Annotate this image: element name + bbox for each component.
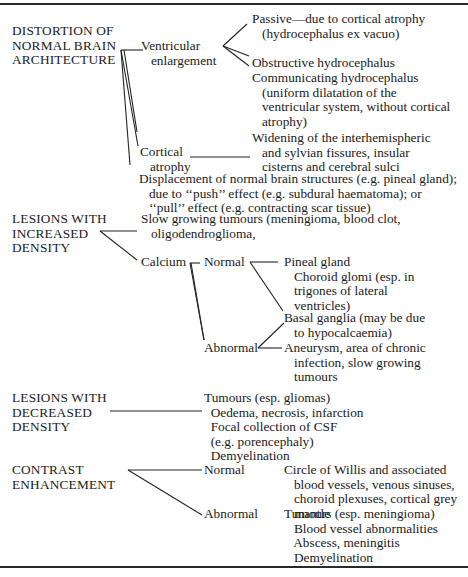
- branch-contrast-normal: Normal: [204, 463, 245, 478]
- category-increased-density: LESIONS WITH INCREASED DENSITY: [12, 212, 107, 256]
- category-decreased-density: LESIONS WITH DECREASED DENSITY: [12, 391, 107, 435]
- item-widening: Widening of the interhemispheric and syl…: [252, 131, 431, 175]
- branch-calcium: Calcium: [141, 255, 186, 270]
- item-basal-ganglia: Basal ganglia (may be due to hypocalcaem…: [284, 311, 425, 340]
- item-decreased-list: Tumours (esp. gliomas) Oedema, necrosis,…: [204, 391, 364, 464]
- branch-calcium-abnormal: Abnormal: [204, 341, 258, 356]
- item-displacement: Displacement of normal brain structures …: [139, 172, 457, 216]
- item-communicating: Communicating hydrocephalus (uniform dil…: [252, 71, 450, 129]
- item-slow-growing-tumours: Slow growing tumours (meningioma, blood …: [141, 212, 401, 241]
- branch-contrast-abnormal: Abnormal: [204, 507, 258, 522]
- item-aneurysm: Aneurysm, area of chronic infection, slo…: [284, 341, 426, 385]
- category-distortion: DISTORTION OF NORMAL BRAIN ARCHITECTURE: [12, 24, 116, 68]
- category-contrast-enhancement: CONTRAST ENHANCEMENT: [12, 463, 115, 492]
- item-passive: Passive—due to cortical atrophy (hydroce…: [252, 12, 425, 41]
- branch-ventricular-enlargement: Ventricular enlargement: [141, 39, 216, 68]
- branch-cortical-atrophy: Cortical atrophy: [140, 145, 191, 174]
- item-pineal-choroid: Pineal gland Choroid glomi (esp. in trig…: [284, 255, 414, 313]
- branch-calcium-normal: Normal: [204, 255, 245, 270]
- item-contrast-abnormal: Tumours (esp. meningioma) Blood vessel a…: [284, 507, 438, 565]
- item-obstructive: Obstructive hydrocephalus: [252, 56, 395, 71]
